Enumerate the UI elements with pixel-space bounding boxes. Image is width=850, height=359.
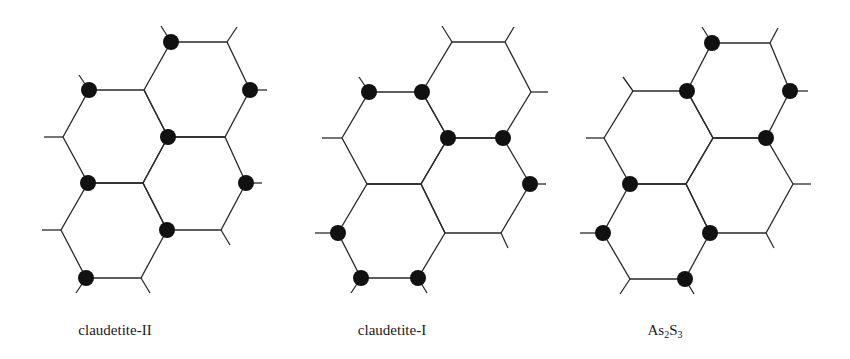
atom-dot bbox=[242, 82, 258, 98]
atom-dot bbox=[238, 175, 254, 191]
bond-stub bbox=[141, 278, 150, 293]
caption-as2s3: As2S3 bbox=[647, 322, 682, 340]
hexagon-ring bbox=[604, 91, 713, 184]
hexagon-ring bbox=[687, 43, 790, 138]
hexagon-ring bbox=[422, 42, 531, 138]
atom-dot bbox=[782, 83, 798, 99]
bond-stub bbox=[766, 233, 774, 248]
hexagon-ring bbox=[143, 137, 246, 230]
panel-as2s3 bbox=[580, 27, 811, 294]
hexagon-ring bbox=[61, 183, 167, 278]
caption-claudetite-II: claudetite-II bbox=[78, 322, 151, 339]
atom-dot bbox=[163, 34, 179, 50]
atom-dot bbox=[410, 270, 426, 286]
hexagonal-layer-figure bbox=[0, 0, 850, 359]
atom-dot bbox=[595, 225, 611, 241]
panel-claudetite-I bbox=[315, 26, 548, 293]
hexagon-ring bbox=[338, 184, 445, 278]
caption-as2s3-element-s: S bbox=[669, 322, 677, 338]
bond-stub bbox=[623, 77, 633, 91]
atom-dot bbox=[361, 84, 377, 100]
bond-stub bbox=[770, 28, 778, 43]
atom-dot bbox=[704, 35, 720, 51]
atom-dot bbox=[414, 84, 430, 100]
atom-dot bbox=[677, 271, 693, 287]
atom-dot bbox=[330, 225, 346, 241]
bond-stub bbox=[501, 233, 508, 248]
bond-stub bbox=[620, 279, 630, 294]
bond-stub bbox=[227, 27, 237, 42]
atom-dot bbox=[78, 270, 94, 286]
bond-stub bbox=[505, 27, 514, 42]
hexagon-ring bbox=[686, 138, 793, 233]
atom-dot bbox=[758, 130, 774, 146]
atom-dot bbox=[495, 130, 511, 146]
hexagon-ring bbox=[63, 90, 168, 183]
caption-claudetite-I: claudetite-I bbox=[358, 322, 426, 339]
atom-dot bbox=[679, 83, 695, 99]
hexagon-ring bbox=[144, 42, 250, 137]
atom-dot bbox=[622, 176, 638, 192]
panel-claudetite-II bbox=[42, 26, 267, 293]
atom-dot bbox=[702, 225, 718, 241]
atom-dot bbox=[522, 176, 538, 192]
atom-dot bbox=[160, 129, 176, 145]
atom-dot bbox=[353, 270, 369, 286]
bond-stub bbox=[442, 26, 452, 42]
atom-dot bbox=[159, 222, 175, 238]
atom-dot bbox=[440, 130, 456, 146]
hexagon-ring bbox=[342, 92, 448, 184]
caption-as2s3-element-as: As bbox=[647, 322, 664, 338]
atom-dot bbox=[81, 82, 97, 98]
caption-as2s3-subscript-3: 3 bbox=[678, 329, 683, 340]
bond-stub bbox=[221, 230, 230, 245]
hexagon-ring bbox=[603, 184, 710, 279]
atom-dot bbox=[80, 175, 96, 191]
